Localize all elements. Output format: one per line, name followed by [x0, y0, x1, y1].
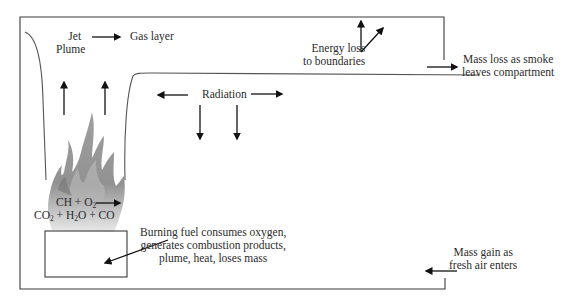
jet-plume-label: Jet Plume: [64, 30, 85, 56]
reaction-reactants: CH + O2: [56, 196, 96, 209]
gas-layer-boundary: [125, 73, 480, 180]
mass-loss-line-2: leaves compartment: [462, 66, 554, 79]
burning-fuel-line-3: plume, heat, loses mass: [140, 252, 286, 265]
mass-gain-label: Mass gain as fresh air enters: [449, 246, 517, 272]
jet-plume-line-1: Jet: [64, 30, 85, 43]
reaction-products: CO2 + H2O + CO: [34, 209, 115, 222]
burning-fuel-line-2: generates combustion products,: [140, 239, 286, 252]
burning-fuel-line-1: Burning fuel consumes oxygen,: [140, 226, 286, 239]
energy-loss-line-1: Energy loss: [303, 42, 365, 55]
mass-loss-label: Mass loss as smoke leaves compartment: [462, 53, 554, 79]
energy-loss-label: Energy loss to boundaries: [303, 42, 365, 68]
gas-layer-label: Gas layer: [130, 30, 174, 43]
burning-fuel-label: Burning fuel consumes oxygen, generates …: [140, 226, 286, 265]
mass-gain-line-2: fresh air enters: [449, 259, 517, 272]
fuel-package: [45, 231, 127, 277]
jet-plume-line-2: Plume: [56, 43, 85, 56]
mass-loss-line-1: Mass loss as smoke: [462, 53, 554, 66]
plume-left-edge: [25, 32, 46, 180]
energy-loss-line-2: to boundaries: [303, 55, 365, 68]
radiation-label: Radiation: [202, 88, 247, 101]
mass-gain-line-1: Mass gain as: [449, 246, 517, 259]
